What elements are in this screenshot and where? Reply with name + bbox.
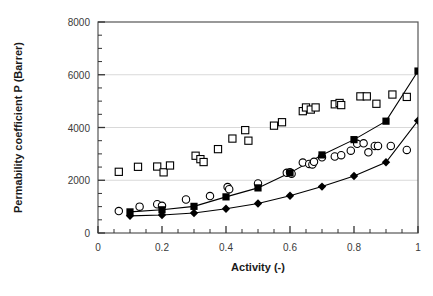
- data-point-filled-square: [382, 118, 389, 125]
- data-point-open-square: [403, 93, 410, 100]
- series-open-circles: [115, 140, 410, 215]
- series-line-filled-squares: [130, 71, 418, 212]
- data-point-open-square: [270, 122, 277, 129]
- data-point-filled-diamond: [254, 199, 262, 207]
- y-axis-tick-label: 6000: [68, 70, 91, 81]
- data-point-open-square: [312, 104, 319, 111]
- data-point-filled-square: [414, 67, 421, 74]
- data-point-filled-diamond: [190, 209, 198, 217]
- data-point-open-square: [229, 135, 236, 142]
- y-axis-title: Permability coefficient P (Barrer): [12, 42, 24, 213]
- series-filled-squares: [126, 67, 421, 215]
- x-axis-tick-label: 0.6: [283, 242, 297, 253]
- data-point-open-circle: [206, 192, 213, 199]
- data-point-open-circle: [387, 142, 394, 149]
- x-axis-title: Activity (-): [231, 261, 285, 273]
- data-point-filled-square: [222, 193, 229, 200]
- data-point-open-circle: [226, 186, 233, 193]
- y-axis-tick-label: 2000: [68, 175, 91, 186]
- data-point-open-square: [214, 146, 221, 153]
- data-point-open-square: [363, 93, 370, 100]
- data-point-filled-square: [350, 136, 357, 143]
- data-point-open-circle: [115, 207, 122, 214]
- data-point-filled-square: [286, 169, 293, 176]
- data-point-filled-square: [254, 184, 261, 191]
- data-point-open-square: [134, 163, 141, 170]
- data-point-filled-diamond: [286, 192, 294, 200]
- data-point-open-circle: [136, 203, 143, 210]
- data-point-open-circle: [374, 142, 381, 149]
- data-point-open-square: [115, 168, 122, 175]
- data-point-open-square: [278, 119, 285, 126]
- data-point-open-square: [338, 101, 345, 108]
- data-point-open-square: [373, 100, 380, 107]
- permeability-activity-scatter-chart: 0200040006000800000.20.40.60.81Activity …: [0, 0, 433, 296]
- data-point-open-circle: [310, 158, 317, 165]
- data-point-filled-diamond: [350, 172, 358, 180]
- data-point-filled-diamond: [222, 205, 230, 213]
- x-axis-tick-label: 0.4: [219, 242, 233, 253]
- data-point-open-square: [242, 127, 249, 134]
- data-point-filled-square: [318, 151, 325, 158]
- x-axis-tick-label: 0: [95, 242, 101, 253]
- data-point-open-square: [160, 169, 167, 176]
- data-point-open-square: [166, 162, 173, 169]
- chart-figure: 0200040006000800000.20.40.60.81Activity …: [0, 0, 433, 296]
- y-axis-tick-label: 8000: [68, 17, 91, 28]
- y-axis-tick-label: 0: [84, 228, 90, 239]
- data-point-open-circle: [403, 146, 410, 153]
- data-point-open-square: [200, 158, 207, 165]
- data-point-open-circle: [365, 149, 372, 156]
- data-point-open-circle: [360, 140, 367, 147]
- x-axis-tick-label: 1: [415, 242, 421, 253]
- y-axis-tick-label: 4000: [68, 123, 91, 134]
- series-open-squares: [115, 91, 410, 176]
- x-axis-tick-label: 0.8: [347, 242, 361, 253]
- data-point-open-circle: [347, 147, 354, 154]
- data-point-filled-diamond: [318, 182, 326, 190]
- data-point-open-circle: [182, 196, 189, 203]
- data-point-open-circle: [338, 151, 345, 158]
- data-point-open-square: [245, 137, 252, 144]
- x-axis-tick-label: 0.2: [155, 242, 169, 253]
- data-point-open-square: [389, 91, 396, 98]
